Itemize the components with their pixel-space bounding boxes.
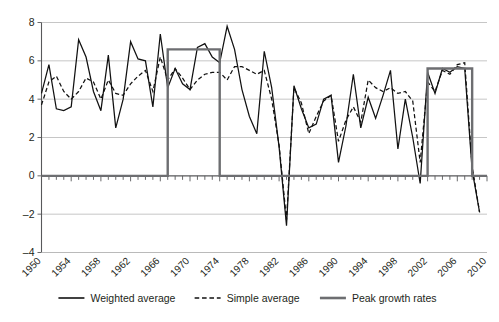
chart-canvas: –4–202468 195019541958196219661970197419… xyxy=(0,0,499,322)
chart-legend: Weighted averageSimple averagePeak growt… xyxy=(58,292,436,304)
y-tick-label-0: 0 xyxy=(29,169,35,181)
legend-label: Weighted average xyxy=(90,292,175,304)
legend-label: Simple average xyxy=(227,292,300,304)
y-tick-label-6: 6 xyxy=(29,54,35,66)
y-tick-label--2: –2 xyxy=(23,208,35,220)
y-tick-label-4: 4 xyxy=(29,93,35,105)
chart-background xyxy=(0,0,499,322)
y-tick-label-8: 8 xyxy=(29,16,35,28)
y-tick-label-2: 2 xyxy=(29,131,35,143)
growth-rates-line-chart: –4–202468 195019541958196219661970197419… xyxy=(0,0,499,322)
legend-label: Peak growth rates xyxy=(352,292,437,304)
